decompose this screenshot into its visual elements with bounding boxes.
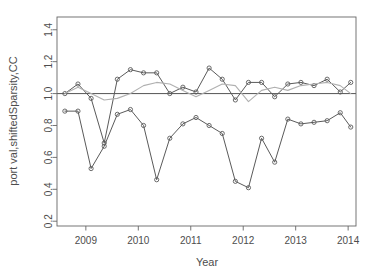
- line-chart: 200920102011201220132014 0.20.40.60.81.0…: [0, 0, 370, 274]
- y-axis-title: port val,shiftedSparsity,CC: [7, 56, 19, 185]
- x-axis-title: Year: [196, 256, 219, 268]
- x-tick-label: 2013: [285, 235, 308, 246]
- y-tick-label: 0.8: [44, 118, 55, 132]
- y-tick-label: 1.4: [44, 22, 55, 36]
- y-tick-label: 0.4: [44, 182, 55, 196]
- x-tick-label: 2009: [75, 235, 98, 246]
- y-tick-label: 1.0: [44, 86, 55, 100]
- x-tick-label: 2011: [180, 235, 202, 246]
- chart-container: 200920102011201220132014 0.20.40.60.81.0…: [0, 0, 370, 274]
- y-tick-label: 0.2: [44, 214, 55, 228]
- x-tick-label: 2010: [127, 235, 150, 246]
- chart-background: [0, 0, 370, 274]
- y-tick-label: 1.2: [44, 54, 55, 68]
- x-tick-label: 2012: [232, 235, 255, 246]
- y-tick-label: 0.6: [44, 150, 55, 164]
- x-tick-label: 2014: [337, 235, 360, 246]
